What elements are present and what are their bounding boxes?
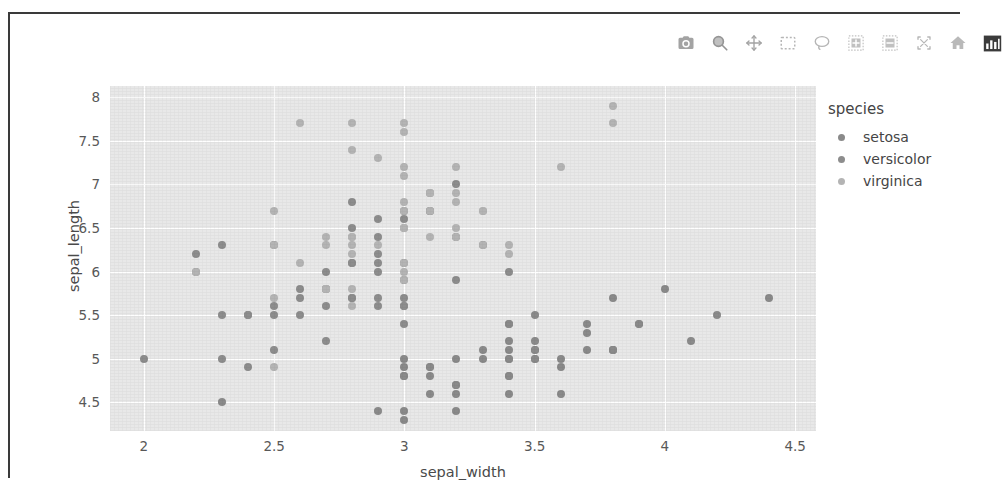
scatter-point[interactable] (609, 102, 617, 110)
scatter-point[interactable] (374, 215, 382, 223)
scatter-point[interactable] (400, 302, 408, 310)
scatter-point[interactable] (661, 285, 669, 293)
scatter-point[interactable] (426, 189, 434, 197)
scatter-point[interactable] (426, 363, 434, 371)
scatter-point[interactable] (192, 250, 200, 258)
scatter-point[interactable] (557, 390, 565, 398)
scatter-point[interactable] (505, 346, 513, 354)
scatter-point[interactable] (635, 320, 643, 328)
scatter-point[interactable] (400, 268, 408, 276)
scatter-point[interactable] (505, 337, 513, 345)
scatter-point[interactable] (322, 268, 330, 276)
scatter-point[interactable] (270, 241, 278, 249)
scatter-point[interactable] (270, 346, 278, 354)
scatter-point[interactable] (557, 355, 565, 363)
legend-item-virginica[interactable]: virginica (838, 170, 931, 192)
scatter-point[interactable] (270, 363, 278, 371)
scatter-point[interactable] (426, 390, 434, 398)
scatter-point[interactable] (348, 119, 356, 127)
scatter-point[interactable] (296, 311, 304, 319)
scatter-point[interactable] (348, 241, 356, 249)
scatter-point[interactable] (505, 355, 513, 363)
scatter-point[interactable] (348, 233, 356, 241)
plot-area[interactable] (110, 86, 816, 431)
scatter-point[interactable] (400, 355, 408, 363)
scatter-point[interactable] (322, 241, 330, 249)
legend-item-versicolor[interactable]: versicolor (838, 148, 931, 170)
scatter-point[interactable] (374, 407, 382, 415)
scatter-point[interactable] (400, 407, 408, 415)
zoom-in-icon[interactable] (846, 33, 866, 53)
scatter-point[interactable] (583, 346, 591, 354)
scatter-point[interactable] (270, 207, 278, 215)
legend[interactable]: species setosaversicolorvirginica (828, 100, 931, 192)
scatter-point[interactable] (479, 207, 487, 215)
scatter-point[interactable] (400, 119, 408, 127)
scatter-point[interactable] (400, 198, 408, 206)
scatter-point[interactable] (713, 311, 721, 319)
scatter-point[interactable] (218, 311, 226, 319)
scatter-point[interactable] (400, 276, 408, 284)
scatter-point[interactable] (479, 241, 487, 249)
scatter-point[interactable] (452, 390, 460, 398)
scatter-point[interactable] (400, 224, 408, 232)
scatter-point[interactable] (452, 381, 460, 389)
scatter-point[interactable] (426, 233, 434, 241)
box-select-icon[interactable] (778, 33, 798, 53)
scatter-point[interactable] (374, 294, 382, 302)
scatter-point[interactable] (348, 250, 356, 258)
scatter-point[interactable] (348, 294, 356, 302)
scatter-point[interactable] (479, 355, 487, 363)
scatter-point[interactable] (609, 294, 617, 302)
scatter-point[interactable] (400, 128, 408, 136)
scatter-point[interactable] (400, 320, 408, 328)
scatter-point[interactable] (400, 207, 408, 215)
scatter-point[interactable] (348, 302, 356, 310)
scatter-point[interactable] (609, 346, 617, 354)
scatter-point[interactable] (400, 294, 408, 302)
legend-item-setosa[interactable]: setosa (838, 126, 931, 148)
scatter-point[interactable] (583, 329, 591, 337)
scatter-point[interactable] (322, 233, 330, 241)
scatter-point[interactable] (322, 302, 330, 310)
scatter-point[interactable] (348, 224, 356, 232)
scatter-point[interactable] (348, 146, 356, 154)
scatter-point[interactable] (531, 337, 539, 345)
scatter-point[interactable] (374, 233, 382, 241)
scatter-point[interactable] (452, 163, 460, 171)
reset-axes-icon[interactable] (948, 33, 968, 53)
scatter-point[interactable] (505, 268, 513, 276)
camera-icon[interactable] (676, 33, 696, 53)
scatter-point[interactable] (348, 285, 356, 293)
scatter-point[interactable] (400, 215, 408, 223)
scatter-point[interactable] (557, 363, 565, 371)
scatter-point[interactable] (192, 268, 200, 276)
scatter-point[interactable] (270, 294, 278, 302)
scatter-point[interactable] (322, 337, 330, 345)
lasso-select-icon[interactable] (812, 33, 832, 53)
plotly-logo-icon[interactable] (982, 33, 1002, 53)
scatter-point[interactable] (452, 276, 460, 284)
legend-items[interactable]: setosaversicolorvirginica (828, 126, 931, 192)
scatter-point[interactable] (479, 346, 487, 354)
scatter-point[interactable] (400, 372, 408, 380)
scatter-point[interactable] (426, 207, 434, 215)
scatter-point[interactable] (400, 416, 408, 424)
scatter-point[interactable] (374, 268, 382, 276)
scatter-point[interactable] (348, 259, 356, 267)
scatter-point[interactable] (244, 363, 252, 371)
scatter-point[interactable] (374, 154, 382, 162)
plotly-modebar[interactable] (670, 26, 1002, 60)
scatter-point[interactable] (531, 311, 539, 319)
scatter-point[interactable] (452, 407, 460, 415)
scatter-point[interactable] (609, 119, 617, 127)
scatter-point[interactable] (452, 180, 460, 188)
scatter-point[interactable] (400, 172, 408, 180)
scatter-point[interactable] (687, 337, 695, 345)
scatter-point[interactable] (400, 259, 408, 267)
scatter-point[interactable] (400, 163, 408, 171)
scatter-point[interactable] (296, 119, 304, 127)
scatter-point[interactable] (218, 355, 226, 363)
scatter-point[interactable] (452, 189, 460, 197)
scatter-point[interactable] (557, 163, 565, 171)
